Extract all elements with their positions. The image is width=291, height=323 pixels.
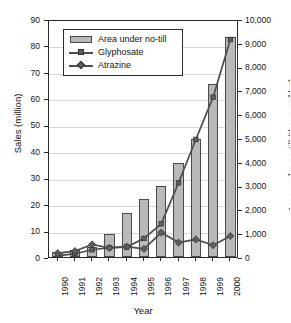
- legend-item-area-under-no-till: Area under no-till: [68, 33, 178, 46]
- y-axis-left-tick-label: 20: [14, 201, 40, 210]
- y-axis-right-tick-label: 5,000: [245, 135, 279, 144]
- x-axis-tick-mark: [160, 258, 161, 261]
- x-axis-tick-label: 1998: [199, 277, 208, 296]
- marker-glyphosate: [159, 222, 164, 227]
- marker-glyphosate: [228, 37, 233, 42]
- legend-label: Atrazine: [98, 61, 131, 70]
- y-axis-right-tick-mark: [238, 258, 242, 259]
- x-axis-tick-label: 1995: [147, 277, 156, 296]
- x-axis-tick-mark: [178, 258, 179, 261]
- y-axis-right-tick-label: 2,000: [245, 206, 279, 215]
- marker-glyphosate: [211, 95, 216, 100]
- y-axis-right-tick-label: 1,000: [245, 230, 279, 239]
- x-axis-tick-mark: [229, 258, 230, 261]
- y-axis-right-tick-mark: [238, 234, 242, 235]
- y-axis-right-tick-mark: [238, 91, 242, 92]
- x-axis-tick-mark: [195, 258, 196, 261]
- y-axis-left-tick-mark: [44, 258, 48, 259]
- y-axis-right-tick-mark: [238, 44, 242, 45]
- y-axis-right-tick-label: 6,000: [245, 111, 279, 120]
- y-axis-right-tick-mark: [238, 163, 242, 164]
- y-axis-right-tick-mark: [238, 210, 242, 211]
- y-axis-right-tick-label: 10,000: [245, 16, 279, 25]
- y-axis-left-tick-label: 10: [14, 227, 40, 236]
- y-axis-right-title: Area under no-till (thousand ha): [286, 66, 291, 226]
- y-axis-right-tick-label: 4,000: [245, 159, 279, 168]
- y-axis-right-tick-label: 9,000: [245, 40, 279, 49]
- y-axis-left-tick-label: 0: [14, 254, 40, 263]
- y-axis-left-tick-label: 80: [14, 42, 40, 51]
- diamond-marker-line-icon: [68, 60, 94, 71]
- x-axis-tick-mark: [74, 258, 75, 261]
- legend-item-glyphosate: Glyphosate: [68, 46, 178, 59]
- x-axis-tick-label: 1990: [61, 277, 70, 296]
- x-axis-tick-mark: [108, 258, 109, 261]
- legend-label: Area under no-till: [98, 35, 167, 44]
- marker-atrazine: [192, 236, 199, 243]
- x-axis-tick-label: 1996: [164, 277, 173, 296]
- x-axis-tick-mark: [91, 258, 92, 261]
- bar-swatch-icon: [68, 34, 94, 45]
- y-axis-right-tick-mark: [238, 139, 242, 140]
- y-axis-left-tick-label: 30: [14, 174, 40, 183]
- x-axis-tick-mark: [57, 258, 58, 261]
- y-axis-left-tick-label: 40: [14, 148, 40, 157]
- y-axis-left-tick-label: 50: [14, 121, 40, 130]
- y-axis-right-tick-label: 7,000: [245, 87, 279, 96]
- y-axis-right-tick-label: 8,000: [245, 63, 279, 72]
- legend-label: Glyphosate: [98, 48, 144, 57]
- y-axis-right-tick-label: 0: [245, 254, 279, 263]
- square-marker-line-icon: [68, 47, 94, 58]
- x-axis-tick-label: 1991: [78, 277, 87, 296]
- x-axis-tick-mark: [126, 258, 127, 261]
- x-axis-tick-label: 1999: [216, 277, 225, 296]
- marker-glyphosate: [142, 236, 147, 241]
- x-axis-tick-label: 1992: [95, 277, 104, 296]
- marker-atrazine: [89, 241, 96, 248]
- y-axis-right-tick-mark: [238, 187, 242, 188]
- chart-figure: Sales (million) Area under no-till (thou…: [0, 0, 290, 323]
- x-axis-tick-mark: [143, 258, 144, 261]
- y-axis-left-tick-label: 90: [14, 16, 40, 25]
- x-axis-tick-label: 1997: [182, 277, 191, 296]
- y-axis-right-tick-mark: [238, 68, 242, 69]
- legend-item-atrazine: Atrazine: [68, 59, 178, 72]
- marker-glyphosate: [176, 181, 181, 186]
- marker-atrazine: [227, 232, 234, 239]
- chart-legend: Area under no-till Glyphosate Atrazine: [63, 29, 183, 76]
- marker-atrazine: [210, 242, 217, 249]
- y-axis-left-tick-label: 60: [14, 95, 40, 104]
- x-axis-tick-label: 2000: [233, 277, 242, 296]
- y-axis-left-tick-label: 70: [14, 69, 40, 78]
- y-axis-right-tick-mark: [238, 115, 242, 116]
- y-axis-right-tick-mark: [238, 20, 242, 21]
- x-axis-tick-label: 1994: [130, 277, 139, 296]
- y-axis-right-tick-label: 3,000: [245, 182, 279, 191]
- x-axis-tick-label: 1993: [112, 277, 121, 296]
- marker-glyphosate: [194, 137, 199, 142]
- x-axis-tick-mark: [212, 258, 213, 261]
- x-axis-title: Year: [48, 305, 238, 316]
- marker-atrazine: [175, 239, 182, 246]
